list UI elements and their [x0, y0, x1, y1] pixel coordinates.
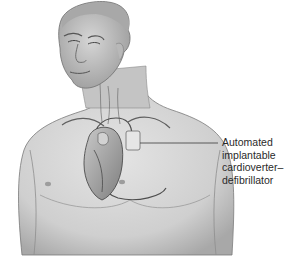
defibrillator-device — [126, 131, 140, 150]
torso — [19, 92, 234, 255]
device-label: Automated implantable cardioverter– defi… — [222, 136, 283, 186]
anatomy-illustration — [0, 0, 292, 259]
nipple-left — [45, 182, 51, 186]
nipple-right — [119, 180, 125, 184]
